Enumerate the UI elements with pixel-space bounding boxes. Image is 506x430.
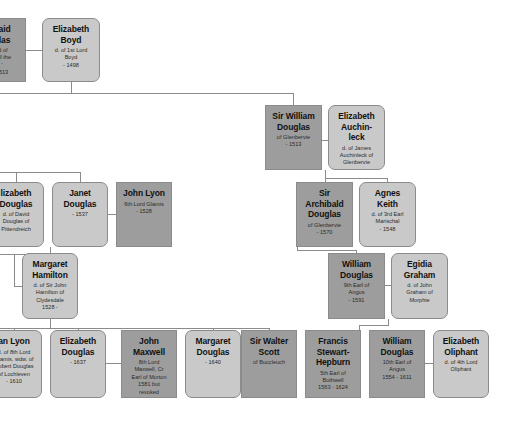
connector-drop-to-janet-douglas (80, 172, 81, 182)
person-node-elizabeth-boyd[interactable]: Elizabeth Boydd. of 1st Lord Boyd - 1498 (42, 18, 100, 82)
connector-drop-to-sir-william-douglas (293, 93, 294, 105)
person-name: Elizabeth Boyd (43, 24, 99, 45)
person-name: Egidia Graham (392, 259, 447, 280)
person-name: Sir Archibald Douglas (297, 188, 352, 220)
person-node-elizabeth-oliphant[interactable]: Elizabeth Oliphantd. of 4th Lord Oliphan… (433, 330, 489, 398)
person-name: Elizabeth Auchin- leck (329, 111, 384, 143)
person-node-john-maxwell[interactable]: John Maxwell8th Lord Maxwell, Cr Earl of… (121, 330, 177, 398)
person-name: lizabeth Douglas (0, 188, 43, 209)
person-name: John Maxwell (122, 336, 176, 357)
connector-marriage-archibald-elizabeth-boyd (26, 50, 42, 51)
person-detail: - 1637 (51, 359, 105, 366)
person-detail: d. of 8th Lord Glamis, wdw. of Robert Do… (0, 349, 41, 386)
person-name: an Lyon (0, 336, 41, 347)
connector-sibling-bar-generation3-left (0, 172, 81, 173)
person-detail: of Buccleuch (242, 359, 296, 366)
person-node-elizabeth-auchinleck[interactable]: Elizabeth Auchin- leckd. of James Auchin… (328, 105, 385, 170)
person-detail: d. of Sir John Hamilton of Clydesdale 15… (23, 282, 77, 312)
person-node-margaret-hamilton[interactable]: Margaret Hamiltond. of Sir John Hamilton… (22, 253, 78, 319)
connector-marriage-elizabeth-john-maxwell (106, 363, 121, 364)
person-node-sir-walter-scott[interactable]: Sir Walter Scottof Buccleuch (241, 330, 297, 398)
connector-sibling-bar-9th-earl (297, 250, 357, 251)
person-detail: - 1640 (186, 359, 240, 366)
connector-descent-auchinleck-stem (325, 170, 326, 178)
person-detail: 9th Earl of Angus - 1591 (329, 282, 384, 304)
person-detail: d. of 1st Lord Boyd - 1498 (43, 47, 99, 69)
connector-drop-to-elizabeth-douglas-pitt (16, 172, 17, 182)
genealogy-chart: baid glasrd of bell the ' 1513Elizabeth … (0, 0, 506, 430)
person-name: Francis Stewart- Hepburn (306, 336, 360, 368)
person-detail: of Glenbervie - 1570 (297, 222, 352, 237)
person-name: John Lyon (117, 188, 171, 199)
person-node-margaret-douglas-1640[interactable]: Margaret Douglas- 1640 (185, 330, 241, 398)
person-detail: 5th Earl of Bothwell 1563 - 1624 (306, 370, 360, 392)
person-node-elizabeth-douglas-pittendreich[interactable]: lizabeth Douglasd. of David Douglas of P… (0, 182, 44, 247)
person-name: Elizabeth Oliphant (434, 336, 488, 357)
person-name: William Douglas (329, 259, 384, 280)
person-name: Sir William Douglas (266, 111, 321, 132)
person-node-archibald-douglas[interactable]: baid glasrd of bell the ' 1513 (0, 18, 26, 82)
connector-sibling-bar-generation2 (0, 93, 294, 94)
connector-sibling-bar-generation4 (0, 328, 270, 329)
person-node-elizabeth-douglas-1637[interactable]: Elizabeth Douglas- 1637 (50, 330, 106, 398)
person-name: Agnes Keith (360, 188, 415, 209)
person-node-agnes-keith[interactable]: Agnes Keithd. of 3rd Earl Marischal - 15… (359, 182, 416, 247)
person-detail: d. of John Graham of Morphie (392, 282, 447, 304)
person-node-jean-lyon[interactable]: an Lyond. of 8th Lord Glamis, wdw. of Ro… (0, 330, 42, 398)
connector-marriage-archibald-margaret-stem (14, 254, 15, 287)
person-node-egidia-graham[interactable]: Egidia Grahamd. of John Graham of Morphi… (391, 253, 448, 319)
person-detail: d. of James Auchinleck of Glenbervie (329, 145, 384, 167)
person-detail: - 1537 (53, 211, 107, 218)
connector-descent-elizabeth-boyd-stem (71, 82, 72, 93)
connector-marriage-margaret-hamilton-left (14, 286, 22, 287)
person-detail: rd of bell the ' 1513 (0, 47, 25, 77)
person-node-sir-william-douglas[interactable]: Sir William Douglasof Glenbervie - 1513 (265, 105, 322, 170)
connector-descent-margaret-hamilton-stem (50, 319, 51, 328)
connector-riser-from-archibald-glenbervie (297, 247, 298, 251)
person-detail: 6th Lord Glamis - 1528 (117, 201, 171, 216)
person-name: William Douglas (370, 336, 424, 357)
person-node-janet-douglas[interactable]: Janet Douglas- 1537 (52, 182, 108, 247)
person-detail: of Glenbervie - 1513 (266, 134, 321, 149)
person-detail: 10th Earl of Angus 1554 - 1611 (370, 359, 424, 381)
connector-descent-auchinleck-bar (325, 178, 388, 179)
person-name: Margaret Hamilton (23, 259, 77, 280)
person-detail: d. of 4th Lord Oliphant (434, 359, 488, 374)
connector-descent-egidia-bar (359, 325, 389, 326)
connector-marriage-10th-earl-oliphant (425, 363, 433, 364)
person-name: Margaret Douglas (186, 336, 240, 357)
person-node-francis-stewart-hepburn[interactable]: Francis Stewart- Hepburn5th Earl of Both… (305, 330, 361, 398)
connector-marriage-janet-john-lyon (108, 214, 116, 215)
person-detail: d. of David Douglas of Pittendreich (0, 211, 43, 233)
person-node-sir-archibald-douglas-glenbervie[interactable]: Sir Archibald Douglasof Glenbervie - 157… (296, 182, 353, 247)
person-node-john-lyon[interactable]: John Lyon6th Lord Glamis - 1528 (116, 182, 172, 247)
person-name: baid glas (0, 24, 25, 45)
person-name: Elizabeth Douglas (51, 336, 105, 357)
person-name: Sir Walter Scott (242, 336, 296, 357)
person-node-william-douglas-9th[interactable]: William Douglas9th Earl of Angus - 1591 (328, 253, 385, 319)
person-node-william-douglas-10th[interactable]: William Douglas10th Earl of Angus 1554 -… (369, 330, 425, 398)
person-detail: d. of 3rd Earl Marischal - 1548 (360, 211, 415, 233)
person-name: Janet Douglas (53, 188, 107, 209)
person-detail: 8th Lord Maxwell, Cr Earl of Morton 1581… (122, 359, 176, 398)
